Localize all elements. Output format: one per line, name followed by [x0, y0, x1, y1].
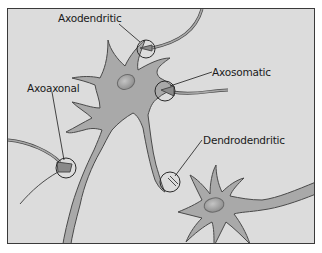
dendrodendritic-circle: [160, 172, 180, 192]
lower-neuron-body: [178, 165, 316, 246]
axoaxonal-terminal: [57, 162, 72, 172]
neuron-illustration: [0, 0, 322, 253]
label-axodendritic: Axodendritic: [58, 13, 122, 24]
axosomatic-leader: [170, 72, 212, 86]
dendrodendritic-leader: [175, 140, 202, 176]
dendrodendritic-contact: [168, 176, 178, 186]
label-axoaxonal: Axoaxonal: [27, 83, 79, 94]
axodendritic-axon: [152, 9, 202, 48]
upper-neuron-body: [62, 40, 175, 250]
label-dendrodendritic: Dendrodendritic: [203, 135, 285, 146]
axoaxonal-axon: [8, 140, 60, 162]
axoaxonal-branch: [20, 172, 58, 204]
label-axosomatic: Axosomatic: [212, 67, 271, 78]
axoaxonal-leader: [52, 92, 64, 160]
axodendritic-leader: [119, 24, 140, 42]
